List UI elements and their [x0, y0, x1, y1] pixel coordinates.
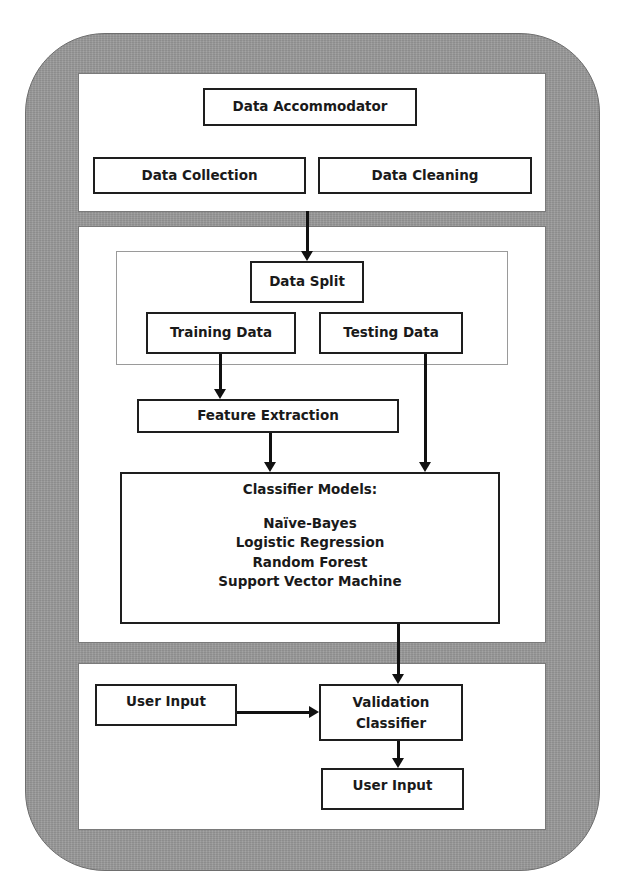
arrow-head-to-data-split [301, 251, 313, 261]
arrow-head-testing-to-classifier [419, 462, 431, 472]
testing-data-box: Testing Data [319, 312, 463, 354]
user-input-source-label: User Input [126, 692, 206, 712]
data-split-box: Data Split [250, 261, 364, 303]
model-naive-bayes: Naïve-Bayes [263, 514, 357, 534]
data-accommodator-box: Data Accommodator [203, 88, 417, 126]
data-split-label: Data Split [269, 272, 345, 292]
model-support-vector-machine: Support Vector Machine [218, 572, 401, 592]
user-input-output-box: User Input [321, 768, 464, 810]
data-cleaning-label: Data Cleaning [372, 166, 479, 186]
validation-classifier-box: Validation Classifier [319, 684, 463, 741]
arrow-shaft-to-data-split [306, 211, 309, 253]
arrow-head-classifier-to-validation [392, 674, 404, 684]
arrow-head-training-to-feature [214, 389, 226, 399]
arrow-shaft-feature-to-classifier [269, 433, 272, 464]
training-data-box: Training Data [146, 312, 296, 354]
model-logistic-regression: Logistic Regression [236, 533, 385, 553]
validation-label-line2: Classifier [356, 713, 426, 733]
model-random-forest: Random Forest [252, 553, 367, 573]
arrow-head-validation-to-output [392, 758, 404, 768]
arrow-head-userinput-to-validation [309, 706, 319, 718]
classifier-models-box: Classifier Models: Naïve-Bayes Logistic … [120, 472, 500, 624]
feature-extraction-box: Feature Extraction [137, 399, 399, 433]
data-cleaning-box: Data Cleaning [318, 157, 532, 194]
user-input-source-box: User Input [95, 684, 237, 726]
arrow-head-feature-to-classifier [264, 462, 276, 472]
arrow-shaft-testing-to-classifier [424, 354, 427, 464]
validation-label-line1: Validation [353, 692, 430, 712]
feature-extraction-label: Feature Extraction [197, 406, 339, 426]
testing-data-label: Testing Data [343, 323, 439, 343]
arrow-shaft-userinput-to-validation [237, 711, 311, 714]
user-input-output-label: User Input [353, 776, 433, 796]
data-collection-label: Data Collection [141, 166, 257, 186]
classifier-models-title: Classifier Models: [243, 480, 377, 500]
arrow-shaft-classifier-to-validation [397, 624, 400, 676]
training-data-label: Training Data [170, 323, 272, 343]
data-collection-box: Data Collection [93, 157, 306, 194]
arrow-shaft-training-to-feature [219, 354, 222, 390]
data-accommodator-label: Data Accommodator [233, 97, 388, 117]
